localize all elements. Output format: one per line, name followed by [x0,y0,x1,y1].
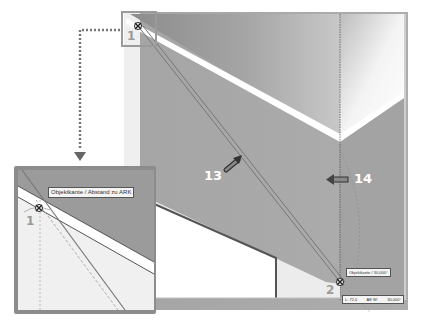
main-drawing [124,12,408,312]
snap-tooltip: Objektkante / 30,000° [346,268,391,277]
measurement-box: L: 72,0 AE W: 30,000° [342,295,404,304]
snap-marker-2-icon[interactable] [337,279,344,286]
inset-snap-tooltip: Objektkante / Abstand zu ARK [48,187,134,198]
callout-14: 14 [354,171,372,186]
length-value: L: 72,0 [345,297,357,302]
callout-13: 13 [204,168,222,183]
point-label-2: 2 [326,283,334,297]
angle-value: 30,000° [387,297,401,302]
point-label-1: 1 [127,29,135,43]
snap-marker-1-icon[interactable] [135,23,142,30]
angle-label: AE W: [367,297,378,302]
cad-viewport[interactable]: 1 2 1 13 14 Objektkante / Abstand zu ARK… [0,0,428,326]
inset-point-label-1: 1 [26,214,34,228]
dotted-connector [74,30,120,161]
